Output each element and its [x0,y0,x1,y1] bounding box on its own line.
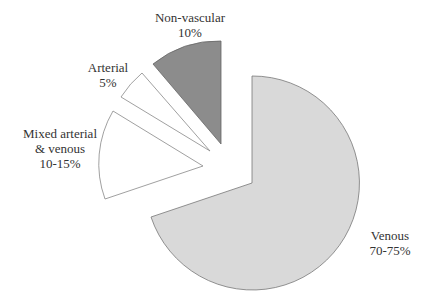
slice-mixed [99,111,203,199]
label-venous: Venous 70-75% [360,228,420,258]
label-arterial: Arterial 5% [76,60,140,90]
label-mixed: Mixed arterial & venous 10-15% [18,126,102,171]
slice-venous [151,76,359,290]
label-non-vascular: Non-vascular 10% [138,10,242,40]
